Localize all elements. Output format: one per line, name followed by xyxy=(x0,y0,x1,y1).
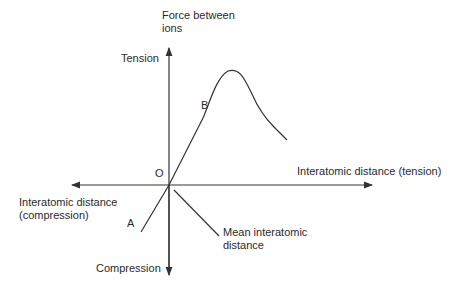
force-curve xyxy=(141,70,287,232)
mean-distance-label: Mean interatomic distance xyxy=(223,226,307,252)
mean-label-line1: Mean interatomic xyxy=(223,226,307,239)
origin-label: O xyxy=(155,167,164,180)
point-b-label: B xyxy=(201,99,208,112)
x-negative-label-line2: (compression) xyxy=(19,209,117,222)
mean-distance-pointer xyxy=(174,190,219,236)
x-negative-label: Interatomic distance (compression) xyxy=(19,196,117,222)
compression-label: Compression xyxy=(96,262,161,275)
y-axis-label-line1: Force between xyxy=(162,9,235,22)
point-a-label: A xyxy=(127,217,134,230)
x-negative-label-line1: Interatomic distance xyxy=(19,196,117,209)
x-positive-label: Interatomic distance (tension) xyxy=(297,165,441,178)
y-axis-label-line2: ions xyxy=(162,22,235,35)
mean-label-line2: distance xyxy=(223,239,307,252)
tension-label: Tension xyxy=(121,52,159,65)
y-axis-label: Force between ions xyxy=(162,9,235,35)
